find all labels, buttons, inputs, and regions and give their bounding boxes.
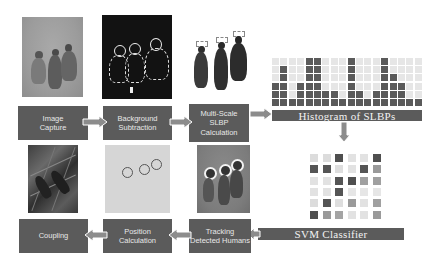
svm-matrix-cell xyxy=(335,188,343,196)
histogram-cell xyxy=(381,83,388,90)
histogram-cell xyxy=(272,74,279,81)
tracking-detected-humans-step: Tracking Detected Humans xyxy=(189,219,251,253)
histogram-cell xyxy=(381,91,388,98)
svm-matrix-cell xyxy=(373,188,381,196)
svm-matrix-cell xyxy=(323,165,331,173)
svm-matrix-cell xyxy=(373,154,381,162)
multi-scale-slbp-silhouettes xyxy=(190,28,250,92)
histogram-cell xyxy=(381,99,388,106)
coupling-label: Coupling xyxy=(39,231,69,241)
histogram-cell xyxy=(364,66,371,73)
histogram-cell xyxy=(289,99,296,106)
histogram-cell xyxy=(306,58,313,65)
svm-matrix-cell xyxy=(348,199,356,207)
histogram-cell xyxy=(322,74,329,81)
histogram-cell xyxy=(398,58,405,65)
histogram-cell xyxy=(406,66,413,73)
histogram-cell xyxy=(390,74,397,81)
histogram-cell xyxy=(373,83,380,90)
histogram-cell xyxy=(356,58,363,65)
histogram-cell xyxy=(390,58,397,65)
arrow-left-icon xyxy=(84,228,108,242)
histogram-cell xyxy=(306,99,313,106)
histogram-cell xyxy=(280,74,287,81)
histogram-cell xyxy=(390,99,397,106)
svm-matrix-cell xyxy=(373,165,381,173)
slbp-histogram xyxy=(272,58,422,106)
svm-matrix-cell xyxy=(335,199,343,207)
histogram-cell xyxy=(373,74,380,81)
svm-matrix-cell xyxy=(373,177,381,185)
arrow-right-icon xyxy=(249,107,273,121)
svm-matrix-cell xyxy=(360,165,368,173)
svm-matrix-cell xyxy=(373,199,381,207)
histogram-cell xyxy=(272,58,279,65)
histogram-cell xyxy=(356,74,363,81)
histogram-cell xyxy=(348,99,355,106)
svm-matrix-cell xyxy=(310,188,318,196)
histogram-cell xyxy=(356,66,363,73)
histogram-cell xyxy=(289,58,296,65)
tracking-detected-humans-label: Tracking Detected Humans xyxy=(190,227,250,246)
histogram-cell xyxy=(314,58,321,65)
svm-matrix-cell xyxy=(348,177,356,185)
histogram-cell xyxy=(314,99,321,106)
svm-matrix-cell xyxy=(323,177,331,185)
histogram-cell xyxy=(306,66,313,73)
histogram-cell xyxy=(373,66,380,73)
histogram-cell xyxy=(364,58,371,65)
svm-matrix xyxy=(310,154,386,224)
histogram-cell xyxy=(339,91,346,98)
histogram-cell xyxy=(364,91,371,98)
svm-matrix-cell xyxy=(360,188,368,196)
histogram-cell xyxy=(280,99,287,106)
histogram-cell xyxy=(289,91,296,98)
histogram-of-slbps-label: Histogram of SLBPs xyxy=(272,110,422,121)
histogram-cell xyxy=(280,66,287,73)
histogram-cell xyxy=(322,58,329,65)
histogram-cell xyxy=(306,74,313,81)
histogram-cell xyxy=(289,66,296,73)
histogram-cell xyxy=(339,83,346,90)
histogram-cell xyxy=(339,99,346,106)
histogram-cell xyxy=(306,83,313,90)
histogram-cell xyxy=(398,83,405,90)
histogram-cell xyxy=(331,83,338,90)
histogram-cell xyxy=(348,83,355,90)
histogram-cell xyxy=(339,58,346,65)
histogram-cell xyxy=(398,99,405,106)
histogram-cell xyxy=(356,83,363,90)
histogram-cell xyxy=(331,58,338,65)
svm-matrix-cell xyxy=(360,154,368,162)
svm-matrix-cell xyxy=(360,211,368,219)
arrow-left-icon xyxy=(168,228,192,242)
histogram-cell xyxy=(364,99,371,106)
histogram-cell xyxy=(280,58,287,65)
histogram-cell xyxy=(331,66,338,73)
histogram-cell xyxy=(364,83,371,90)
histogram-cell xyxy=(415,74,422,81)
arrow-right-icon xyxy=(169,115,193,129)
svm-matrix-cell xyxy=(360,177,368,185)
tracking-photo xyxy=(197,145,250,213)
histogram-cell xyxy=(297,66,304,73)
position-calculation-step: Position Calculation xyxy=(103,219,172,253)
histogram-cell xyxy=(415,58,422,65)
arrow-down-icon xyxy=(337,121,351,143)
histogram-label-text: Histogram of SLBPs xyxy=(298,110,395,122)
image-capture-photo xyxy=(22,17,83,97)
histogram-cell xyxy=(348,66,355,73)
histogram-cell xyxy=(331,74,338,81)
svm-matrix-cell xyxy=(310,211,318,219)
histogram-cell xyxy=(314,83,321,90)
histogram-cell xyxy=(356,99,363,106)
image-capture-step: Image Capture xyxy=(18,106,88,140)
histogram-cell xyxy=(415,66,422,73)
svm-matrix-cell xyxy=(348,154,356,162)
histogram-cell xyxy=(272,99,279,106)
histogram-cell xyxy=(381,58,388,65)
histogram-cell xyxy=(390,83,397,90)
histogram-cell xyxy=(314,66,321,73)
background-subtraction-step: Background Subtraction xyxy=(103,106,172,140)
svm-matrix-cell xyxy=(310,199,318,207)
